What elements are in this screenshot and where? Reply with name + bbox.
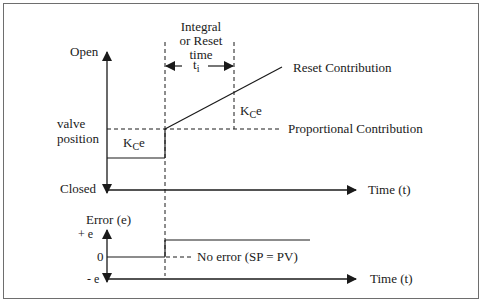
minus-e-tick: - e [87,272,99,286]
bottom-time-axis-label: Time (t) [370,272,413,286]
reset-contribution-label: Reset Contribution [293,61,392,75]
integral-time-label-line2: or Reset [170,34,232,48]
open-label: Open [70,45,98,59]
closed-label: Closed [60,182,96,196]
error-axis-title: Error (e) [86,213,131,227]
valve-position-label: valve position [57,117,99,146]
proportional-step-kce-label: KCe [123,136,145,150]
zero-tick: 0 [97,250,104,264]
proportional-contribution-label: Proportional Contribution [288,122,423,136]
integral-time-label-line1: Integral [170,20,232,34]
no-error-label: No error (SP = PV) [197,250,298,264]
plus-e-tick: + e [78,227,93,241]
reset-contribution-ramp [165,67,282,129]
integral-time-label: Integral or Reset time [170,20,232,62]
integral-time-label-line3: time [170,48,232,62]
integral-time-symbol: ti [193,58,199,72]
reset-step-kce-label: KCe [240,104,262,118]
top-time-axis-label: Time (t) [368,183,411,197]
